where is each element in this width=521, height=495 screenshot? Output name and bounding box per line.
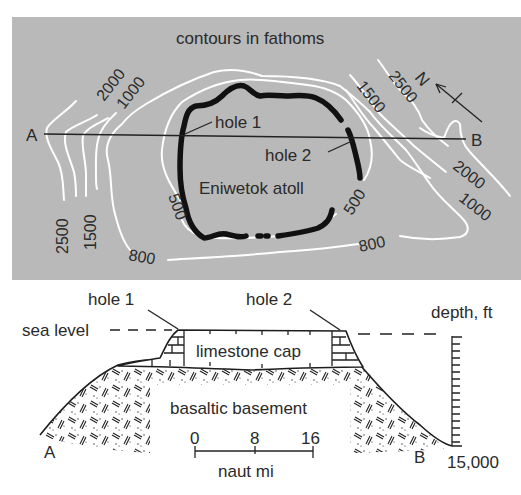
contour-label: 1500 xyxy=(82,214,99,250)
cross-section: sea level hole 1 hole 2 limestone cap ba… xyxy=(22,290,499,481)
section-hole-1-label: hole 1 xyxy=(88,290,134,309)
limestone-cap-label: limestone cap xyxy=(196,342,301,361)
section-start-label: A xyxy=(26,126,38,145)
section-end-label: B xyxy=(471,131,482,150)
section-hole-2-label: hole 2 xyxy=(246,290,292,309)
section-left-label: A xyxy=(44,443,56,462)
scale-unit-label: naut mi xyxy=(218,462,274,481)
eniwetok-figure: contours in fathoms xyxy=(0,0,521,495)
scale-tick-0: 0 xyxy=(190,429,199,448)
contour-map: contours in fathoms xyxy=(12,17,521,280)
scale-tick-8: 8 xyxy=(250,429,259,448)
depth-max-label: 15,000 xyxy=(447,453,499,472)
contour-label: 2500 xyxy=(54,218,71,254)
depth-axis-label: depth, ft xyxy=(431,303,493,322)
atoll-label: Eniwetok atoll xyxy=(199,179,304,198)
basaltic-basement-label: basaltic basement xyxy=(170,399,307,418)
section-right-label: B xyxy=(414,448,425,467)
map-hole-2-label: hole 2 xyxy=(265,146,311,165)
sea-level-label: sea level xyxy=(22,321,89,340)
scale-tick-16: 16 xyxy=(301,429,320,448)
map-hole-1-label: hole 1 xyxy=(215,113,261,132)
map-title: contours in fathoms xyxy=(176,29,324,48)
